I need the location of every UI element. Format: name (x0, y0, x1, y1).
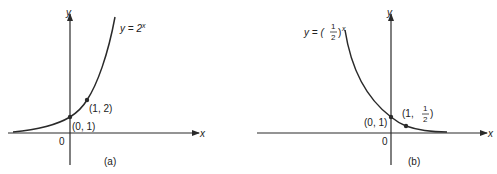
svg-text:(1,: (1, (402, 108, 414, 119)
point-0-1 (68, 115, 72, 119)
x-axis-label: x (199, 128, 206, 139)
svg-text:): ) (430, 108, 433, 119)
svg-text:2: 2 (331, 33, 336, 42)
point-label-0-1: (0, 1) (72, 121, 95, 132)
figure: x y 0 (0, 1) (1, 2) y = 2x (a) x y 0 (0,… (0, 0, 497, 174)
panel-label-a: (a) (104, 156, 116, 167)
point-0-1 (389, 115, 393, 119)
point-1-2 (85, 98, 89, 102)
svg-text:x: x (341, 25, 346, 32)
svg-text:1: 1 (423, 104, 428, 113)
origin-label: 0 (382, 136, 388, 147)
y-axis-label: y (386, 7, 393, 18)
function-label-b: y = ( 1 2 ) x (303, 22, 346, 42)
panel-b: x y 0 (0, 1) (1, 1 2 ) y = ( 1 2 ) x (b) (257, 7, 494, 167)
panel-label-b: (b) (408, 156, 420, 167)
x-axis-label: x (487, 128, 494, 139)
panel-a: x y 0 (0, 1) (1, 2) y = 2x (a) (8, 7, 206, 167)
point-label-1-2: (1, 2) (89, 103, 112, 114)
point-1-half (404, 124, 408, 128)
origin-label: 0 (59, 136, 65, 147)
point-label-0-1: (0, 1) (364, 117, 387, 128)
curve-2-power-x (13, 17, 115, 132)
svg-text:1: 1 (331, 22, 336, 31)
point-label-1-half: (1, 1 2 ) (402, 104, 433, 124)
y-axis-label: y (65, 7, 72, 18)
function-label-a: y = 2x (119, 22, 146, 34)
svg-text:): ) (338, 27, 341, 38)
svg-text:2: 2 (423, 115, 428, 124)
svg-text:y = (: y = ( (303, 27, 325, 38)
